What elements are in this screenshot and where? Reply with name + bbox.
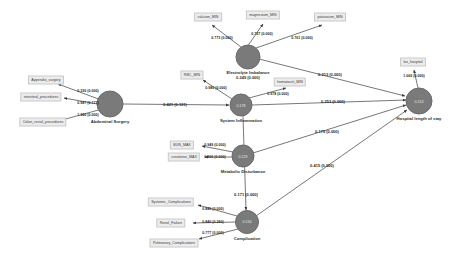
coefficient-colon-rectal: 1.360 (0.000) xyxy=(77,113,98,117)
latent-metabolic-disturbance: 0.129 xyxy=(232,145,255,168)
coefficient-surgery-inflammation: 0.421 (0.131) xyxy=(163,102,187,107)
coefficient-intestinal: 0.987 (0.171) xyxy=(77,101,98,105)
observed-los-hospital: los_hospital xyxy=(400,58,426,67)
coefficient-inflammation-complication: 0.171 (0.000) xyxy=(234,192,258,197)
coefficient-systemic: 0.849 (0.000) xyxy=(202,207,223,211)
latent-r2-electrolyte-imbalance: 0.249 (0.000) xyxy=(226,75,269,80)
coefficient-rbc: 0.980 (0.000) xyxy=(205,86,226,90)
observed-pulmonary-complications: Pulmonary_Complications xyxy=(150,239,199,248)
coefficient-pulmonary: 0.777 (0.000) xyxy=(202,231,223,235)
latent-label-abdominal-surgery: Abdominal Surgery xyxy=(91,119,130,124)
latent-label-metabolic-disturbance: Metabolic Disturbance xyxy=(221,169,266,174)
path-diagram-canvas: calcium_MIN magnesium_MIN potassium_MIN … xyxy=(0,0,476,263)
latent-label-system-inflammation: System Inflammation xyxy=(220,118,262,123)
coefficient-inflammation-los: 0.253 (0.000) xyxy=(321,99,345,104)
observed-appendix-surgery: Appendix_surgery xyxy=(28,76,64,85)
latent-system-inflammation: 0.178 xyxy=(230,94,253,117)
observed-systemic-complications: Systemic_Complications xyxy=(148,198,194,207)
coefficient-metabolic-los: 0.179 (0.000) xyxy=(315,129,339,134)
edge-los-indicator xyxy=(414,70,418,88)
coefficient-hematocrit: 0.978 (0.000) xyxy=(267,92,288,96)
coefficient-potassium: 0.761 (0.000) xyxy=(291,36,312,40)
observed-hematocrit-min: hematocrit_MIN xyxy=(274,78,306,87)
observed-creatinine-max: creatinine_MAX xyxy=(168,153,200,162)
observed-intestinal-procedures: intestinal_procedures xyxy=(20,93,61,102)
coefficient-los-hospital: 1.000 (0.000) xyxy=(403,74,424,78)
observed-magnesium-min: magnesium_MIN xyxy=(246,11,280,20)
observed-rbc-min: RBC_MIN xyxy=(180,71,203,80)
latent-abdominal-surgery xyxy=(97,91,124,118)
coefficient-electrolyte-los: 0.213 (0.000) xyxy=(318,72,342,77)
coefficient-appendix: 0.330 (0.000) xyxy=(77,89,98,93)
latent-hospital-length-of-stay: 0.214 xyxy=(406,88,433,115)
latent-complication: 0.134 xyxy=(235,210,259,234)
coefficient-bun: 0.949 (0.000) xyxy=(204,143,225,147)
coefficient-creatinine: 0.906 (0.000) xyxy=(204,155,225,159)
coefficient-complication-los: 0.415 (0.000) xyxy=(310,163,334,168)
coefficient-calcium: 0.773 (0.000) xyxy=(211,36,232,40)
latent-label-complication: Complication xyxy=(234,236,261,241)
observed-potassium-min: potassium_MIN xyxy=(314,13,346,22)
observed-bun-max: BUN_MAX xyxy=(170,141,194,150)
latent-label-electrolyte-imbalance: Electrolyte Imbalance 0.249 (0.000) xyxy=(226,70,269,80)
coefficient-magnesium: 0.727 (0.000) xyxy=(251,32,272,36)
latent-electrolyte-imbalance: 0.249 (0.000) xyxy=(236,45,261,70)
observed-renal-failure: Renal_Failure xyxy=(156,219,185,228)
observed-calcium-min: calcium_MIN xyxy=(194,13,222,22)
observed-colon-rectal-procedures: Colon_rectal_procedures xyxy=(19,118,66,127)
coefficient-renal: 0.840 (0.260) xyxy=(202,220,223,224)
latent-label-hospital-length-of-stay: Hospital length of stay xyxy=(397,116,442,121)
latent-label-electrolyte-imbalance-text: Electrolyte Imbalance xyxy=(226,70,269,75)
